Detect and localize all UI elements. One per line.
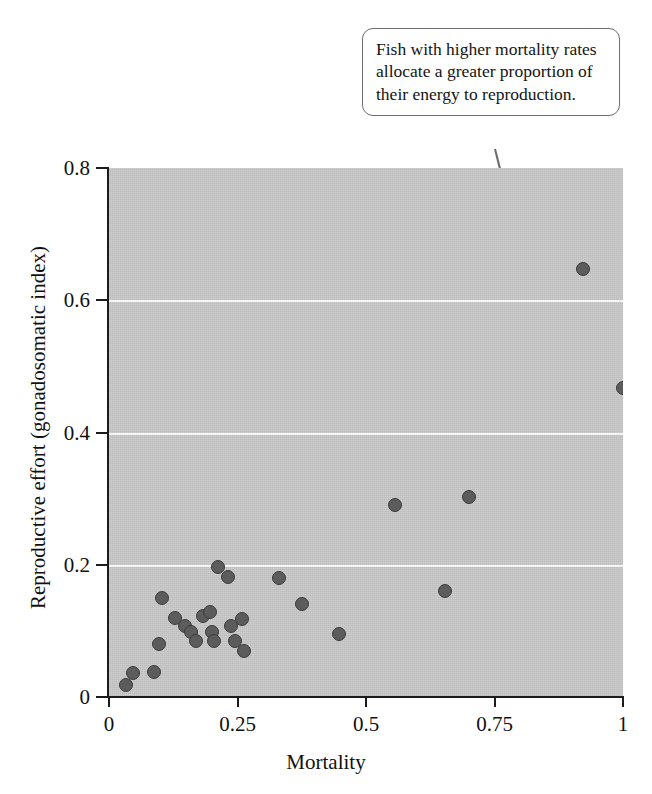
x-tick-label-4: 1	[578, 712, 652, 737]
data-point	[207, 634, 221, 648]
x-tick-label-0: 0	[64, 712, 154, 737]
data-point	[237, 644, 251, 658]
y-tick-mark-2	[96, 432, 107, 434]
x-tick-label-2: 0.5	[321, 712, 411, 737]
data-point	[388, 498, 402, 512]
x-tick-mark-0	[108, 696, 110, 707]
x-tick-mark-4	[622, 696, 624, 707]
data-point	[438, 584, 452, 598]
x-tick-mark-1	[237, 696, 239, 707]
y-tick-mark-0	[96, 696, 107, 698]
x-tick-label-3: 0.75	[450, 712, 540, 737]
y-axis-title: Reproductive effort (gonadosomatic index…	[26, 158, 51, 698]
y-axis-line	[107, 167, 109, 698]
data-point	[332, 627, 346, 641]
data-point	[147, 665, 161, 679]
data-point	[126, 666, 140, 680]
data-point	[576, 262, 590, 276]
data-point	[462, 490, 476, 504]
gridline-y-0.2	[109, 565, 623, 567]
data-point	[119, 678, 133, 692]
data-point	[203, 605, 217, 619]
scatter-plot-figure: Fish with higher mortality rates allocat…	[0, 0, 652, 794]
x-tick-label-1: 0.25	[193, 712, 283, 737]
annotation-text: Fish with higher mortality rates allocat…	[376, 39, 597, 104]
data-point	[616, 381, 623, 395]
gridline-y-0.6	[109, 300, 623, 302]
gridline-y-0.4	[109, 433, 623, 435]
y-tick-mark-4	[96, 167, 107, 169]
data-point	[295, 597, 309, 611]
x-tick-mark-3	[494, 696, 496, 707]
annotation-callout: Fish with higher mortality rates allocat…	[362, 28, 620, 116]
data-point	[221, 570, 235, 584]
data-point	[152, 637, 166, 651]
data-point	[189, 634, 203, 648]
x-tick-mark-2	[365, 696, 367, 707]
y-tick-mark-3	[96, 299, 107, 301]
data-point	[235, 612, 249, 626]
plot-area	[109, 168, 623, 697]
y-tick-mark-1	[96, 564, 107, 566]
x-axis-title: Mortality	[0, 750, 652, 775]
data-point	[155, 591, 169, 605]
data-point	[272, 571, 286, 585]
